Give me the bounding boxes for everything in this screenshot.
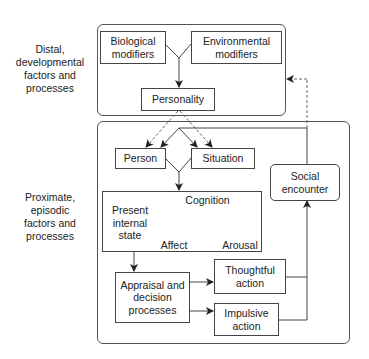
biological-modifiers-node: Biological modifiers <box>100 31 166 64</box>
merge-bio-env <box>165 44 191 58</box>
personality-node: Personality <box>141 88 215 111</box>
affect-label: Affect <box>156 239 192 252</box>
environmental-modifiers-node: Environmental modifiers <box>191 31 282 64</box>
appraisal-decision-node: Appraisal and decision processes <box>115 272 190 323</box>
personality-process-diagram: Distal, developmental factors and proces… <box>0 0 369 359</box>
social-encounter-node: Social encounter <box>270 164 340 201</box>
thoughtful-action-node: Thoughtful action <box>214 259 286 294</box>
person-node: Person <box>115 148 166 169</box>
present-internal-state-label: Present internal state <box>108 204 152 242</box>
impulsive-action-node: Impulsive action <box>214 303 279 336</box>
cognition-label: Cognition <box>180 194 235 207</box>
arousal-label: Arousal <box>219 239 261 252</box>
situation-node: Situation <box>191 148 255 169</box>
